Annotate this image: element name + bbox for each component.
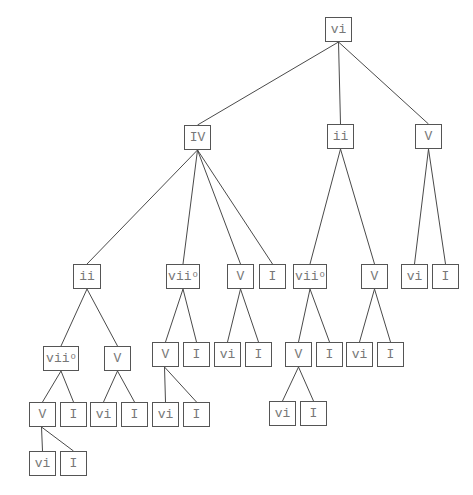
chord-node-iv: IV [184,125,211,150]
chord-node-i: I [183,342,210,367]
chord-label: vi [331,22,347,37]
chord-node-i: I [432,264,459,289]
chord-label: I [269,269,277,284]
chord-node-i: I [316,342,343,367]
diminished-symbol: o [193,270,198,280]
chord-label: I [310,406,318,421]
chord-label: I [442,269,450,284]
diminished-symbol: o [71,352,76,362]
chord-node-v: V [361,264,388,289]
chord-label: IV [190,130,206,145]
chord-tree-diagram: viIViiViiviioVIviioVviIviioVVIviIVIviIVI… [0,0,473,495]
chord-node-i: I [245,342,272,367]
diminished-symbol: o [320,270,325,280]
tree-edge [42,427,74,451]
tree-edge [341,149,375,264]
chord-node-i: I [259,264,286,289]
tree-edge [241,289,259,342]
chord-label: ii [79,269,95,284]
chord-node-i: I [60,402,87,427]
chord-label: I [70,407,78,422]
chord-node-v: V [104,346,131,371]
chord-node-i: I [300,401,327,426]
tree-edge [198,150,241,264]
tree-edge [283,367,299,401]
tree-edge [339,42,429,124]
chord-node-v: V [415,124,442,149]
tree-edge [166,289,184,342]
tree-edge [42,427,43,451]
chord-label: vii [46,351,69,366]
chord-node-vi: vi [346,342,373,367]
tree-edge [104,371,118,402]
chord-label: vi [96,407,112,422]
chord-label: vi [352,347,368,362]
chord-label: I [326,347,334,362]
tree-edge [310,149,341,264]
tree-edge [61,371,74,402]
chord-node-vii-dim: viio [166,264,200,289]
chord-label: V [114,351,122,366]
chord-node-ii: ii [327,124,354,149]
chord-node-vii-dim: viio [293,264,327,289]
chord-label: vi [158,407,174,422]
chord-label: V [162,347,170,362]
chord-label: vi [275,406,291,421]
chord-node-vi: vi [214,342,241,367]
chord-node-vi: vi [90,402,117,427]
chord-node-i: I [183,402,210,427]
chord-label: V [39,407,47,422]
chord-label: I [131,407,139,422]
tree-edge [415,149,429,264]
chord-label: vi [35,456,51,471]
tree-edge [165,367,197,402]
tree-edge [198,42,339,125]
tree-edge [299,289,311,342]
tree-edge [61,289,87,346]
tree-edge [375,289,391,342]
chord-label: vi [220,347,236,362]
chord-node-i: I [121,402,148,427]
chord-node-v: V [152,342,179,367]
chord-node-vi: vi [401,264,428,289]
chord-label: ii [333,129,349,144]
tree-edge [198,150,273,264]
chord-label: I [255,347,263,362]
chord-node-i: I [377,342,404,367]
chord-label: I [387,347,395,362]
chord-label: V [371,269,379,284]
chord-label: V [295,347,303,362]
chord-node-vi: vi [269,401,296,426]
tree-edge [165,367,166,402]
chord-label: I [193,407,201,422]
chord-label: vii [295,269,318,284]
chord-node-i: I [60,451,87,476]
tree-edge [228,289,241,342]
tree-edge [87,150,198,264]
chord-node-vii-dim: viio [43,346,79,371]
tree-edge [299,367,314,401]
chord-label: V [425,129,433,144]
chord-label: vii [168,269,191,284]
chord-node-vi: vi [29,451,56,476]
tree-edge [183,150,198,264]
chord-node-vi: vi [152,402,179,427]
tree-edge [339,42,341,124]
tree-edge [429,149,446,264]
chord-node-v: V [285,342,312,367]
chord-label: vi [407,269,423,284]
tree-edge [118,371,135,402]
tree-edge [360,289,375,342]
chord-node-v: V [29,402,56,427]
chord-node-ii: ii [73,264,101,289]
tree-edge [310,289,330,342]
tree-edge [43,371,62,402]
chord-label: I [70,456,78,471]
chord-label: V [237,269,245,284]
tree-edge [87,289,118,346]
chord-label: I [193,347,201,362]
tree-edge [183,289,197,342]
chord-node-vi: vi [325,17,352,42]
chord-node-v: V [227,264,254,289]
